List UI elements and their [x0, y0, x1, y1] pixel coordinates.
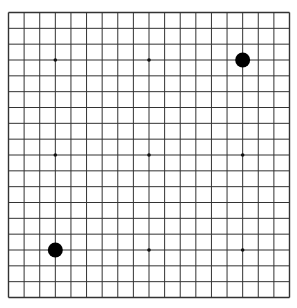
- black-stone[interactable]: [235, 53, 250, 68]
- star-point: [147, 58, 151, 62]
- black-stone[interactable]: [48, 243, 63, 258]
- star-point: [241, 153, 245, 157]
- go-board[interactable]: [0, 0, 297, 308]
- star-point: [147, 153, 151, 157]
- star-point: [147, 248, 151, 252]
- star-point: [54, 58, 58, 62]
- star-point: [54, 153, 58, 157]
- star-point: [241, 248, 245, 252]
